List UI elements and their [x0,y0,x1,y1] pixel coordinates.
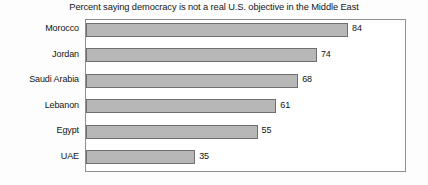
bar-morocco [86,23,348,37]
bar-row: Egypt 55 [0,121,428,147]
bar-value-uae: 35 [199,151,209,161]
category-label-morocco: Morocco [45,23,79,33]
bar-row: Morocco 84 [0,19,428,45]
bar-value-egypt: 55 [262,125,272,135]
bar-value-lebanon: 61 [280,100,290,110]
bar-saudi-arabia [86,74,298,88]
bar-egypt [86,125,258,139]
category-label-saudi-arabia: Saudi Arabia [29,74,79,84]
bar-value-jordan: 74 [321,49,331,59]
bar-row: Lebanon 61 [0,96,428,122]
category-label-egypt: Egypt [56,125,79,135]
category-label-lebanon: Lebanon [45,100,79,110]
bar-value-saudi-arabia: 68 [302,74,312,84]
category-label-jordan: Jordan [52,49,79,59]
bar-row: Jordan 74 [0,45,428,71]
bar-track-uae [86,150,195,164]
chart-figure: Percent saying democracy is not a real U… [0,0,428,185]
bar-track-jordan [86,48,317,62]
bar-track-saudi-arabia [86,74,298,88]
bar-row: UAE 35 [0,147,428,173]
chart-title: Percent saying democracy is not a real U… [0,2,428,12]
category-label-uae: UAE [61,151,79,161]
bar-value-morocco: 84 [352,23,362,33]
bar-uae [86,150,195,164]
bar-track-egypt [86,125,258,139]
bar-row: Saudi Arabia 68 [0,70,428,96]
bar-jordan [86,48,317,62]
bar-track-morocco [86,23,348,37]
bar-rows: Morocco 84 Jordan 74 Saudi Arabia 68 Leb… [0,19,428,172]
bar-lebanon [86,99,276,113]
bar-track-lebanon [86,99,276,113]
